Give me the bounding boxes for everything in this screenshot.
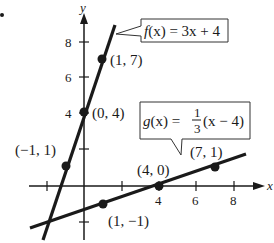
x-axis-arrow-icon [253,182,265,190]
label-7-1: (7, 1) [190,144,223,161]
bullet-marker [0,13,4,17]
point-m1-1 [62,162,71,171]
label-m1-1: (−1, 1) [15,142,56,159]
point-7-1 [211,163,220,172]
y-axis-label: y [78,0,86,15]
x-axis: x 4 6 8 [29,178,273,208]
g-equation: g(x) = [143,113,180,130]
point-4-0 [155,182,164,191]
y-tick-4: 4 [65,106,72,121]
y-tick-6: 6 [65,70,72,85]
label-1-7: (1, 7) [110,52,143,69]
label-1-m1: (1, −1) [108,213,149,230]
g-frac-num: 1 [194,105,201,120]
x-tick-6: 6 [192,193,199,208]
f-callout: f(x) = 3x + 4 [116,19,228,42]
label-0-4: (0, 4) [92,105,125,122]
label-4-0: (4, 0) [137,162,170,179]
point-0-4 [80,108,89,117]
y-axis: y 8 6 4 [65,0,89,240]
f-equation: f(x) = 3x + 4 [144,23,221,40]
g-equation-rest: (x − 4) [203,113,244,130]
point-1-7 [98,55,107,64]
function-graph: y 8 6 4 x 4 6 8 (1, 7) (0, [0,0,274,243]
y-tick-8: 8 [65,35,72,50]
point-1-m1 [99,200,108,209]
x-tick-4: 4 [155,193,162,208]
x-tick-8: 8 [230,193,237,208]
x-axis-label: x [266,178,273,193]
g-frac-den: 3 [194,121,201,136]
